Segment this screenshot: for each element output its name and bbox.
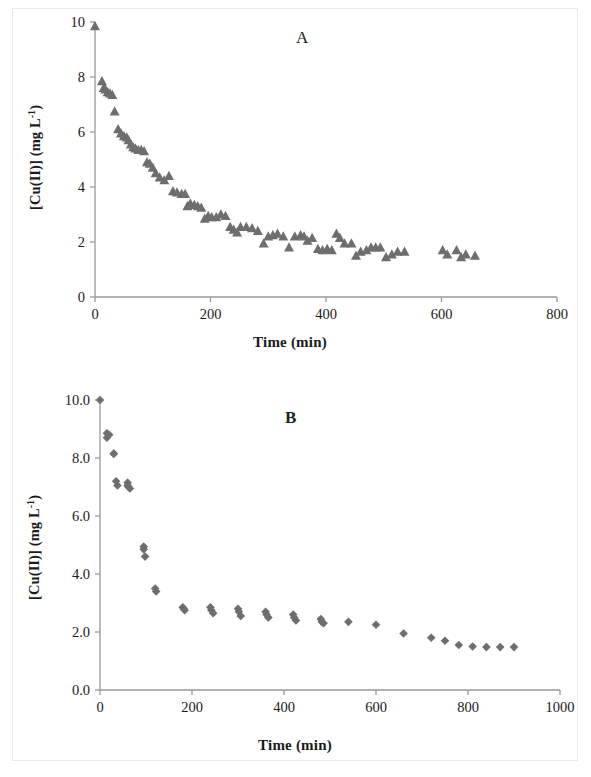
y-axis-title-a-tail: ) (27, 105, 43, 110)
y-tick-label: 6 (78, 124, 85, 140)
y-axis-title-a-main: [Cu(II)] (mg L (27, 118, 43, 210)
y-tick-label: 10.0 (65, 392, 90, 408)
x-tick-label: 400 (315, 306, 337, 322)
x-tick-label: 600 (431, 306, 453, 322)
x-tick-label: 0 (91, 306, 98, 322)
y-tick-label: 0.0 (72, 682, 90, 698)
y-tick-label: 10 (71, 14, 86, 30)
data-point (496, 643, 505, 652)
data-point (372, 620, 381, 629)
figure-container: 02004006008000246810 A Time (min) [Cu(II… (0, 0, 591, 777)
data-point (427, 634, 436, 643)
x-tick-label: 800 (457, 699, 479, 715)
data-point (141, 552, 150, 561)
x-tick-label: 200 (181, 699, 203, 715)
data-point (110, 449, 119, 458)
data-point (346, 238, 356, 247)
y-axis-title-a: [Cu(II)] (mg L-1) (26, 77, 45, 237)
panel-label-b: B (285, 408, 297, 428)
data-point (468, 642, 477, 651)
y-tick-label: 4.0 (72, 566, 90, 582)
data-point (344, 618, 353, 627)
y-tick-label: 4 (78, 179, 86, 195)
data-point (307, 233, 317, 242)
scatter-plot-a: 02004006008000246810 (0, 0, 591, 388)
data-point (482, 643, 491, 652)
x-tick-label: 400 (273, 699, 295, 715)
y-tick-label: 8 (78, 69, 85, 85)
chart-panel-a: 02004006008000246810 A Time (min) [Cu(II… (0, 0, 591, 388)
y-axis-title-a-superscript: -1 (26, 110, 37, 119)
y-tick-label: 2 (78, 234, 85, 250)
y-tick-label: 0 (78, 289, 85, 305)
y-axis-title-b-superscript: -1 (25, 500, 36, 509)
data-point (399, 629, 408, 638)
data-point (400, 246, 410, 255)
scatter-plot-b: 020040060080010000.02.04.06.08.010.0 (0, 388, 591, 777)
data-point (461, 249, 471, 258)
x-axis-title-a: Time (min) (20, 334, 560, 351)
chart-panel-b: 020040060080010000.02.04.06.08.010.0 B T… (0, 388, 591, 777)
data-point (470, 251, 480, 260)
data-point (97, 76, 107, 85)
data-point (455, 641, 464, 650)
data-point-group (90, 21, 480, 261)
y-tick-label: 8.0 (72, 450, 90, 466)
data-point (284, 242, 294, 251)
y-axis-title-b-tail: ) (26, 495, 42, 500)
x-axis-title-b: Time (min) (25, 737, 565, 754)
data-point (452, 245, 462, 254)
y-tick-label: 2.0 (72, 624, 90, 640)
x-tick-label: 600 (365, 699, 387, 715)
data-point (441, 636, 450, 645)
panel-label-a: A (296, 28, 309, 48)
y-axis-title-b: [Cu(II)] (mg L-1) (25, 467, 44, 627)
data-point (110, 106, 120, 115)
data-point-group (96, 396, 519, 652)
y-axis-title-b-main: [Cu(II)] (mg L (26, 508, 42, 600)
x-tick-label: 800 (546, 306, 568, 322)
data-point (510, 643, 519, 652)
data-point (96, 396, 105, 405)
y-tick-label: 6.0 (72, 508, 90, 524)
x-tick-label: 0 (96, 699, 103, 715)
x-tick-label: 1000 (546, 699, 575, 715)
data-point (164, 171, 174, 180)
x-tick-label: 200 (200, 306, 222, 322)
